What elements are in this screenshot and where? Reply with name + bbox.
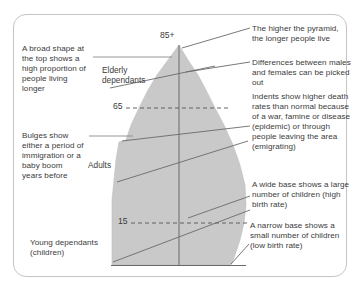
axis-tick-85plus: 85+ [160, 30, 175, 40]
axis-tick-15: 15 [118, 216, 128, 226]
axis-tick-65: 65 [113, 101, 123, 111]
leader-line-differences [186, 62, 250, 72]
note-wide-base: A wide base shows a large number of chil… [252, 180, 352, 210]
note-higher-pyramid: The higher the pyramid, the longer peopl… [252, 24, 352, 44]
leader-line-higher-pyramid [182, 28, 250, 48]
note-bulges: Bulges show either a period of immigrati… [22, 131, 84, 181]
note-differences-males-females: Differences between males and females ca… [252, 58, 356, 88]
population-pyramid-diagram: 85+ 65 15 Elderly dependants Adults A br… [0, 0, 361, 291]
note-young-dependants: Young dependants (children) [30, 238, 100, 258]
note-narrow-base: A narrow base shows a small number of ch… [250, 221, 352, 251]
group-label-elderly-dependants: Elderly dependants [102, 65, 152, 85]
group-label-adults: Adults [88, 160, 128, 170]
note-broad-shape: A broad shape at the top shows a high pr… [22, 44, 88, 94]
note-indents-death-rates: Indents show higher death rates than nor… [252, 92, 356, 153]
